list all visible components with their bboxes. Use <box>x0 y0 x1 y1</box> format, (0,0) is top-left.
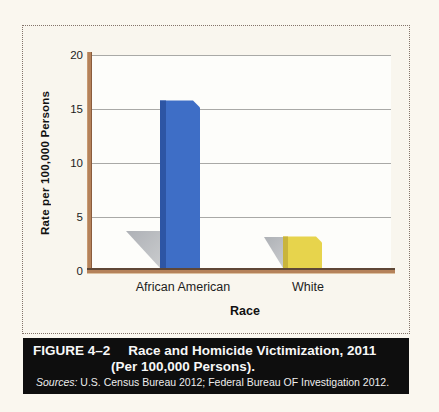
y-axis-title: Rate per 100,000 Persons <box>36 55 54 271</box>
gridline-15 <box>92 109 391 110</box>
gridline-5 <box>92 217 391 218</box>
bar-side-face <box>160 100 166 271</box>
x-axis-line <box>87 268 395 274</box>
y-axis-line <box>87 52 92 273</box>
x-axis-title: Race <box>215 304 275 318</box>
figure-title: Race and Homicide Victimization, 2011 <box>128 343 376 359</box>
page: 20 15 10 5 0 Rate per 100,000 Persons Af… <box>0 0 439 412</box>
caption-line-1: FIGURE 4–2 Race and Homicide Victimizati… <box>33 343 399 359</box>
y-tick-5: 5 <box>52 209 83 225</box>
y-tick-15: 15 <box>52 101 83 117</box>
bar-african-american <box>160 100 200 271</box>
figure-caption-bar: FIGURE 4–2 Race and Homicide Victimizati… <box>23 338 409 394</box>
y-tick-10: 10 <box>52 155 83 171</box>
bar-shadow-african-american <box>126 231 160 268</box>
category-label-white: White <box>270 280 346 294</box>
bar-side-face <box>283 236 288 271</box>
y-tick-20: 20 <box>52 47 83 63</box>
figure-subtitle: (Per 100,000 Persons). <box>111 359 399 375</box>
figure-number-label: FIGURE 4–2 <box>33 343 110 359</box>
bar-shadow-white <box>264 237 283 268</box>
figure-sources: Sources: U.S. Census Bureau 2012; Federa… <box>36 376 399 389</box>
sources-label: Sources: <box>36 376 77 388</box>
gridline-20 <box>92 55 391 56</box>
gridline-10 <box>92 163 391 164</box>
bar-white <box>283 236 322 271</box>
sources-text: U.S. Census Bureau 2012; Federal Bureau … <box>77 376 389 388</box>
category-label-african-american: African American <box>110 280 256 294</box>
plot-area <box>92 55 391 271</box>
y-tick-0: 0 <box>52 263 83 279</box>
